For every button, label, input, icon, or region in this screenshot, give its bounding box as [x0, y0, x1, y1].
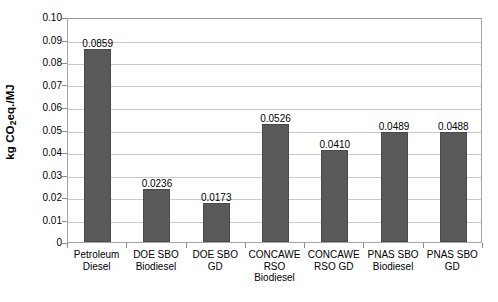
y-axis-tick-label: 0.05 [24, 126, 62, 136]
x-axis-category-label: DOE SBOGD [186, 249, 245, 272]
bar-value-label: 0.0488 [423, 121, 483, 132]
y-axis-tick-mark [62, 18, 67, 19]
bar [381, 132, 408, 242]
y-axis-tick-labels: 0.100.090.080.070.060.050.040.030.020.01… [24, 18, 62, 243]
y-axis-tick-label: 0.07 [24, 81, 62, 91]
bar-value-label: 0.0489 [364, 121, 424, 132]
x-axis-category-label: PetroleumDiesel [67, 249, 126, 272]
y-axis-title-subscript: 2 [8, 120, 18, 125]
x-axis-category-label-line: PNAS SBO [363, 249, 422, 261]
plot-area: 0.08590.02360.01730.05260.04100.04890.04… [67, 18, 482, 243]
x-axis-category-label-line: CONCAWE [245, 249, 304, 261]
y-axis-tick-label: 0.10 [24, 13, 62, 23]
y-axis-tick-label: 0 [24, 238, 62, 248]
y-axis-tick-label: 0.03 [24, 171, 62, 181]
y-axis-tick-mark [62, 131, 67, 132]
x-axis-category-label-line: Petroleum [67, 249, 126, 261]
y-axis-tick-label: 0.08 [24, 58, 62, 68]
x-axis-category-label-line: DOE SBO [186, 249, 245, 261]
x-axis-category-label-line: Biodiesel [363, 261, 422, 273]
x-axis-category-label-line: RSO GD [304, 261, 363, 273]
y-axis-tick-mark [62, 108, 67, 109]
y-axis-tick-label: 0.04 [24, 148, 62, 158]
y-axis-title-text: kg CO2eq./MJ [4, 84, 18, 160]
x-axis-tick-mark [67, 243, 68, 248]
gridline [68, 86, 481, 87]
y-axis-tick-label: 0.09 [24, 36, 62, 46]
x-axis-category-label: CONCAWERSOBiodiesel [245, 249, 304, 284]
bar-chart: kg CO2eq./MJ 0.100.090.080.070.060.050.0… [0, 0, 498, 302]
bar [203, 203, 230, 242]
x-axis-category-label-line: Diesel [67, 261, 126, 273]
bar [143, 189, 170, 242]
bar-value-label: 0.0859 [68, 38, 128, 49]
x-axis-category-label-line: CONCAWE [304, 249, 363, 261]
y-axis-tick-label: 0.01 [24, 216, 62, 226]
y-axis-tick-label: 0.02 [24, 193, 62, 203]
x-axis-category-label-line: GD [423, 261, 482, 273]
y-axis-tick-mark [62, 41, 67, 42]
x-axis-category-label-line: DOE SBO [126, 249, 185, 261]
bar [262, 124, 289, 242]
y-axis-tick-mark [62, 85, 67, 86]
y-axis-tick-mark [62, 221, 67, 222]
gridline [68, 64, 481, 65]
bar-value-label: 0.0410 [305, 139, 365, 150]
x-axis-tick-mark [186, 243, 187, 248]
x-axis-category-label: DOE SBOBiodiesel [126, 249, 185, 272]
x-axis-tick-mark [363, 243, 364, 248]
y-axis-title-suffix: eq./MJ [4, 84, 16, 120]
x-axis-category-label: PNAS SBOBiodiesel [363, 249, 422, 272]
bar [84, 49, 111, 242]
x-axis-category-label: CONCAWERSO GD [304, 249, 363, 272]
bar [440, 132, 467, 242]
bar-value-label: 0.0236 [127, 178, 187, 189]
gridline [68, 109, 481, 110]
x-axis-tick-mark [304, 243, 305, 248]
x-axis-tick-labels: PetroleumDieselDOE SBOBiodieselDOE SBOGD… [67, 249, 482, 299]
y-axis-title-prefix: kg CO [4, 125, 16, 159]
bar-value-label: 0.0526 [246, 113, 306, 124]
x-axis-category-label: PNAS SBOGD [423, 249, 482, 272]
y-axis-tick-mark [62, 153, 67, 154]
y-axis-tick-mark [62, 63, 67, 64]
x-axis-tick-mark [482, 243, 483, 248]
y-axis-tick-mark [62, 198, 67, 199]
x-axis-tick-mark [126, 243, 127, 248]
x-axis-tick-mark [245, 243, 246, 248]
y-axis-tick-mark [62, 176, 67, 177]
bar-value-label: 0.0173 [186, 192, 246, 203]
x-axis-category-label-line: RSO [245, 261, 304, 273]
x-axis-category-label-line: Biodiesel [245, 272, 304, 284]
y-axis-tick-label: 0.06 [24, 103, 62, 113]
x-axis-category-label-line: PNAS SBO [423, 249, 482, 261]
x-axis-category-label-line: GD [186, 261, 245, 273]
gridline [68, 42, 481, 43]
bar [321, 150, 348, 242]
x-axis-tick-mark [423, 243, 424, 248]
x-axis-category-label-line: Biodiesel [126, 261, 185, 273]
y-axis-title: kg CO2eq./MJ [0, 0, 22, 243]
